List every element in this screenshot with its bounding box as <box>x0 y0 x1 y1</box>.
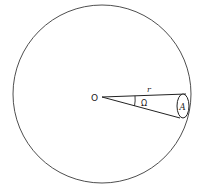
area-label: A <box>179 102 186 112</box>
solid-angle-diagram: O r Ω A <box>0 0 200 190</box>
solid-angle-label: Ω <box>141 99 147 108</box>
center-label: O <box>91 93 98 103</box>
